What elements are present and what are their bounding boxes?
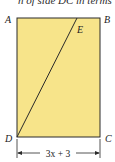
dimension-arrow-right — [95, 151, 100, 155]
vertex-label-d: D — [4, 133, 13, 144]
dimension-arrow-left — [17, 151, 22, 155]
dimension-label-dc: 3x + 3 — [46, 149, 71, 159]
rectangle-diagram: A B C D E 3x + 3 — [0, 0, 115, 162]
vertex-label-b: B — [104, 14, 110, 25]
point-label-e: E — [76, 24, 83, 35]
vertex-label-c: C — [105, 133, 112, 144]
rectangle-abcd — [17, 18, 100, 137]
vertex-label-a: A — [4, 14, 12, 25]
